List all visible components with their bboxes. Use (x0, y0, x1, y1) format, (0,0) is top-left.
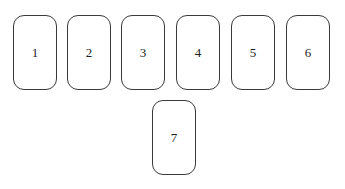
card-label: 3 (140, 45, 147, 61)
card-6: 6 (286, 15, 330, 90)
card-label: 2 (86, 45, 93, 61)
card-label: 5 (250, 45, 257, 61)
card-1: 1 (13, 15, 57, 90)
card-label: 6 (305, 45, 312, 61)
card-label: 7 (171, 130, 178, 146)
card-4: 4 (176, 15, 220, 90)
card-7: 7 (152, 100, 196, 175)
card-label: 4 (195, 45, 202, 61)
card-5: 5 (231, 15, 275, 90)
card-3: 3 (121, 15, 165, 90)
card-label: 1 (32, 45, 39, 61)
card-2: 2 (67, 15, 111, 90)
